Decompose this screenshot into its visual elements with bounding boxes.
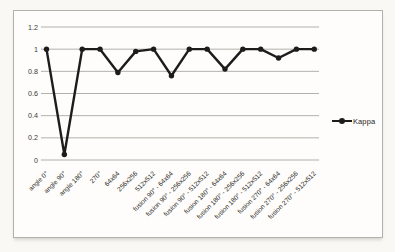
legend: Kappa bbox=[332, 115, 375, 127]
legend-line-marker-icon bbox=[332, 118, 352, 125]
chart-frame: 00.20.40.60.811.2angle 0°angle 90°angle … bbox=[13, 10, 383, 238]
y-tick-label: 0.4 bbox=[28, 111, 38, 120]
legend-label: Kappa bbox=[353, 117, 375, 126]
data-point-marker bbox=[44, 46, 49, 51]
data-point-marker bbox=[204, 46, 209, 51]
y-tick-label: 0.8 bbox=[28, 67, 38, 76]
data-point-marker bbox=[151, 46, 156, 51]
data-point-marker bbox=[276, 55, 281, 60]
data-point-marker bbox=[294, 46, 299, 51]
data-point-marker bbox=[222, 66, 227, 71]
y-tick-label: 0 bbox=[34, 156, 38, 165]
kappa-line-chart: 00.20.40.60.811.2angle 0°angle 90°angle … bbox=[14, 11, 382, 237]
data-point-marker bbox=[115, 70, 120, 75]
data-point-marker bbox=[258, 46, 263, 51]
data-point-marker bbox=[169, 73, 174, 78]
data-point-marker bbox=[62, 152, 67, 157]
y-tick-label: 0.2 bbox=[28, 133, 38, 142]
y-tick-label: 0.6 bbox=[28, 89, 38, 98]
series-line-kappa bbox=[47, 49, 315, 154]
screenshot-root: 00.20.40.60.811.2angle 0°angle 90°angle … bbox=[0, 0, 395, 252]
data-point-marker bbox=[312, 46, 317, 51]
x-category-label: 270° bbox=[88, 170, 103, 185]
y-tick-label: 1.2 bbox=[28, 23, 38, 32]
data-point-marker bbox=[97, 46, 102, 51]
data-point-marker bbox=[240, 46, 245, 51]
data-point-marker bbox=[80, 46, 85, 51]
data-point-marker bbox=[187, 46, 192, 51]
y-tick-label: 1 bbox=[34, 45, 38, 54]
data-point-marker bbox=[133, 49, 138, 54]
